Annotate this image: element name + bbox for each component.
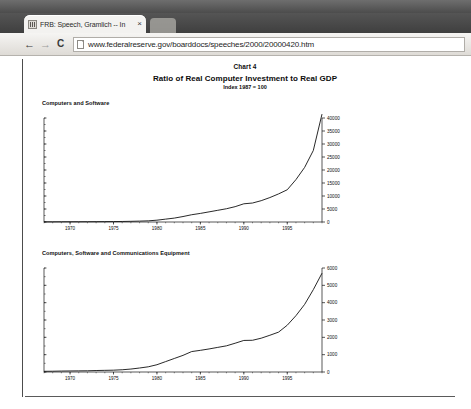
page-title: Ratio of Real Computer Investment to Rea… (30, 74, 460, 83)
svg-text:30000: 30000 (327, 142, 340, 147)
page-icon (77, 40, 84, 49)
svg-text:1985: 1985 (195, 226, 206, 231)
browser-toolbar: ← → C www.federalreserve.gov/boarddocs/s… (0, 33, 471, 56)
page-left-border (22, 59, 23, 397)
back-icon[interactable]: ← (24, 38, 35, 50)
chart-2-plot: 0100020003000400050006000197019751980198… (38, 262, 378, 386)
svg-text:40000: 40000 (327, 116, 340, 121)
chart-1-plot: 0500010000150002000025000300003500040000… (38, 112, 378, 236)
svg-text:1990: 1990 (239, 376, 250, 381)
svg-text:1985: 1985 (195, 376, 206, 381)
chart-number: Chart 4 (30, 63, 460, 70)
tab-strip: FRB: Speech, Gramlich -- In × (0, 13, 471, 33)
page-subtitle: Index 1987 = 100 (30, 84, 460, 90)
svg-text:1970: 1970 (65, 376, 76, 381)
svg-text:1975: 1975 (108, 376, 119, 381)
browser-window: FRB: Speech, Gramlich -- In × ← → C www.… (0, 0, 471, 409)
address-bar[interactable]: www.federalreserve.gov/boarddocs/speeche… (73, 37, 465, 52)
svg-text:6000: 6000 (327, 266, 338, 271)
svg-text:1995: 1995 (282, 376, 293, 381)
svg-text:20000: 20000 (327, 168, 340, 173)
svg-text:0: 0 (327, 370, 330, 375)
svg-text:1970: 1970 (65, 226, 76, 231)
reload-icon[interactable]: C (57, 38, 64, 50)
browser-tab[interactable]: FRB: Speech, Gramlich -- In × (24, 15, 146, 33)
new-tab-button[interactable] (150, 18, 176, 33)
chart-2-heading: Computers, Software and Communications E… (42, 250, 190, 256)
svg-text:10000: 10000 (327, 194, 340, 199)
forward-icon[interactable]: → (40, 38, 51, 50)
svg-text:15000: 15000 (327, 181, 340, 186)
chart-panel-2: Computers, Software and Communications E… (30, 250, 460, 390)
address-bar-url: www.federalreserve.gov/boarddocs/speeche… (88, 40, 314, 49)
svg-text:1980: 1980 (152, 376, 163, 381)
svg-text:1975: 1975 (108, 226, 119, 231)
chart-1-heading: Computers and Software (42, 100, 109, 106)
chart-panel-1: Computers and Software 05000100001500020… (30, 100, 460, 240)
svg-text:0: 0 (327, 220, 330, 225)
page-content: Chart 4 Ratio of Real Computer Investmen… (30, 57, 460, 390)
window-title-bar (0, 0, 471, 13)
svg-text:5000: 5000 (327, 283, 338, 288)
close-icon[interactable]: × (135, 20, 142, 28)
svg-text:5000: 5000 (327, 207, 338, 212)
page-horizontal-rule (25, 396, 455, 397)
svg-text:35000: 35000 (327, 129, 340, 134)
svg-text:1000: 1000 (327, 352, 338, 357)
svg-text:1980: 1980 (152, 226, 163, 231)
svg-text:1990: 1990 (239, 226, 250, 231)
tab-title: FRB: Speech, Gramlich -- In (40, 21, 135, 28)
svg-text:25000: 25000 (327, 155, 340, 160)
page-viewport[interactable]: Chart 4 Ratio of Real Computer Investmen… (0, 57, 471, 409)
svg-text:2000: 2000 (327, 335, 338, 340)
svg-text:3000: 3000 (327, 318, 338, 323)
frb-favicon (28, 20, 37, 29)
svg-text:4000: 4000 (327, 300, 338, 305)
svg-text:1995: 1995 (282, 226, 293, 231)
